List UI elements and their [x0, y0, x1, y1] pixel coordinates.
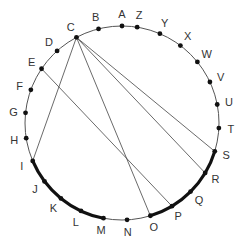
label-c: C: [67, 21, 75, 33]
label-a: A: [118, 8, 126, 20]
label-p: P: [174, 210, 181, 222]
point-g: [23, 110, 28, 115]
label-u: U: [225, 96, 233, 108]
label-r: R: [211, 173, 219, 185]
point-u: [215, 102, 220, 107]
label-b: B: [92, 11, 99, 23]
point-l: [79, 209, 84, 214]
point-a: [120, 24, 125, 29]
point-s: [212, 149, 217, 154]
label-f: F: [16, 80, 23, 92]
label-o: O: [150, 221, 159, 233]
point-v: [208, 80, 213, 85]
point-w: [195, 60, 200, 65]
point-t: [216, 126, 221, 131]
point-x: [178, 43, 183, 48]
point-y: [158, 31, 163, 36]
chord-e-p: [42, 69, 172, 206]
chord-c-o: [76, 37, 150, 215]
point-f: [28, 87, 33, 92]
point-e: [39, 66, 44, 71]
chords: [33, 37, 215, 215]
label-w: W: [202, 48, 213, 60]
point-m: [101, 216, 106, 221]
label-z: Z: [136, 9, 143, 21]
label-x: X: [184, 30, 192, 42]
chord-c-r: [76, 37, 205, 173]
point-i: [30, 159, 35, 164]
label-q: Q: [195, 194, 204, 206]
point-p: [170, 204, 175, 209]
point-n: [125, 217, 130, 222]
label-d: D: [45, 36, 53, 48]
label-s: S: [223, 149, 230, 161]
label-j: J: [32, 183, 38, 195]
point-o: [148, 213, 153, 218]
label-k: K: [50, 202, 58, 214]
label-y: Y: [161, 17, 169, 29]
point-z: [135, 25, 140, 30]
point-j: [42, 179, 47, 184]
point-k: [59, 196, 64, 201]
point-q: [188, 189, 193, 194]
label-t: T: [227, 123, 234, 135]
chord-c-s: [76, 37, 214, 151]
label-m: M: [97, 224, 106, 236]
label-v: V: [217, 71, 225, 83]
thick-arc-o-s: [150, 151, 214, 215]
label-g: G: [9, 106, 18, 118]
point-h: [24, 136, 29, 141]
point-d: [55, 49, 60, 54]
thick-arcs: [33, 151, 215, 218]
point-r: [203, 171, 208, 176]
label-i: I: [20, 160, 23, 172]
label-h: H: [10, 134, 18, 146]
label-n: N: [124, 226, 132, 238]
point-b: [96, 26, 101, 31]
point-c: [74, 35, 79, 40]
point-labels: ABCDEFGHIJKLMNOPQRSTUVWXYZ: [9, 8, 234, 238]
label-l: L: [73, 216, 79, 228]
label-e: E: [28, 56, 35, 68]
thick-arc-i-m: [33, 161, 104, 218]
circle-diagram: ABCDEFGHIJKLMNOPQRSTUVWXYZ: [0, 0, 245, 246]
